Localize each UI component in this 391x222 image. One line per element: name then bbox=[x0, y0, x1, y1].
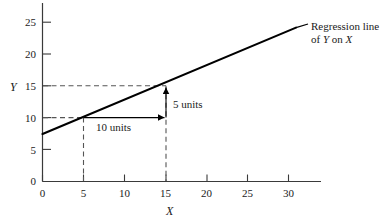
regression-line bbox=[43, 28, 297, 134]
y-tick-label-5: 5 bbox=[6, 145, 36, 156]
callout-leader-line bbox=[296, 24, 308, 28]
x-tick-label-15: 15 bbox=[153, 188, 178, 199]
rise-label-5-units: 5 units bbox=[173, 98, 203, 111]
callout-of-text: of bbox=[311, 33, 323, 45]
y-tick-label-25: 25 bbox=[6, 17, 36, 28]
y-tick-label-0: 0 bbox=[6, 176, 36, 187]
callout-on-text: on bbox=[329, 33, 346, 45]
x-tick-label-5: 5 bbox=[71, 188, 96, 199]
callout-line-2: of Y on X bbox=[311, 33, 379, 46]
regression-chart-figure: 25 20 15 10 5 0 0 5 10 15 20 25 30 Y X 1… bbox=[0, 0, 391, 222]
y-axis-title: Y bbox=[10, 81, 17, 93]
callout-x-variable: X bbox=[346, 33, 353, 45]
regression-line-callout: Regression line of Y on X bbox=[311, 20, 379, 45]
run-label-10-units: 10 units bbox=[96, 121, 131, 134]
x-tick-label-10: 10 bbox=[112, 188, 137, 199]
x-tick-label-0: 0 bbox=[30, 188, 55, 199]
y-tick-label-20: 20 bbox=[6, 49, 36, 60]
y-tick-label-10: 10 bbox=[6, 113, 36, 124]
x-tick-label-30: 30 bbox=[276, 188, 301, 199]
x-tick-label-25: 25 bbox=[235, 188, 260, 199]
x-tick-label-20: 20 bbox=[194, 188, 219, 199]
callout-line-1: Regression line bbox=[311, 20, 379, 33]
x-axis-title: X bbox=[166, 205, 173, 217]
